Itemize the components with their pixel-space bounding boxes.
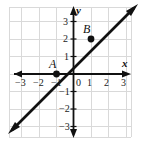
data-point-b bbox=[88, 36, 95, 43]
x-tick-label-2: 2 bbox=[104, 78, 109, 88]
x-tick-label-0: 0 bbox=[76, 78, 81, 88]
x-axis-label: x bbox=[122, 58, 128, 69]
y-tick-label--2: −2 bbox=[59, 104, 70, 114]
plot-canvas bbox=[0, 0, 146, 143]
point-label-b: B bbox=[83, 23, 90, 35]
coordinate-plane-figure: −3 −2 −1 0 1 2 3 3 2 1 −1 −2 −3 x y A B bbox=[0, 0, 146, 143]
x-axis bbox=[14, 71, 131, 78]
x-tick-label-3: 3 bbox=[121, 78, 126, 88]
y-tick-label--3: −3 bbox=[59, 122, 70, 132]
y-tick-label--1: −1 bbox=[59, 87, 70, 97]
x-tick-label--2: −2 bbox=[33, 78, 44, 88]
y-tick-label-2: 2 bbox=[63, 34, 68, 44]
x-tick-label-1: 1 bbox=[87, 78, 92, 88]
y-tick-label-1: 1 bbox=[64, 52, 69, 62]
x-tick-label--3: −3 bbox=[15, 78, 26, 88]
y-tick-label-3: 3 bbox=[63, 17, 68, 27]
y-axis-label: y bbox=[76, 5, 81, 16]
point-label-a: A bbox=[49, 58, 56, 70]
